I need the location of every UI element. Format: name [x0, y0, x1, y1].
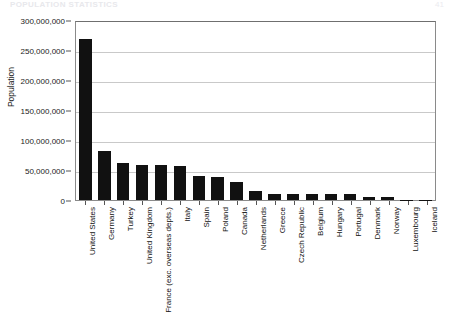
x-tick-slot: United Kingdom	[132, 203, 151, 315]
y-tick-label: 50,000,000	[25, 167, 65, 176]
x-tick-slot: Netherlands	[246, 203, 265, 315]
bar-slot	[76, 22, 95, 200]
bar[interactable]	[174, 166, 186, 201]
x-tick-mark	[389, 201, 390, 205]
bar[interactable]	[363, 197, 375, 200]
x-tick-slot: Norway	[379, 203, 398, 315]
bar[interactable]	[136, 165, 148, 200]
x-tick-mark	[294, 201, 295, 205]
bar-slot	[170, 22, 189, 200]
bar-slot	[114, 22, 133, 200]
bar-slot	[246, 22, 265, 200]
bar[interactable]	[381, 197, 393, 200]
bar-slot	[416, 22, 435, 200]
bar-slot	[397, 22, 416, 200]
bar-slot	[265, 22, 284, 200]
x-tick-mark	[85, 201, 86, 205]
x-tick-mark	[237, 201, 238, 205]
bar[interactable]	[193, 176, 205, 200]
bar[interactable]	[98, 151, 110, 200]
x-tick-slot: Belgium	[303, 203, 322, 315]
bar[interactable]	[79, 39, 91, 200]
x-tick-mark	[408, 201, 409, 205]
x-tick-mark	[199, 201, 200, 205]
bar-slot	[189, 22, 208, 200]
bar[interactable]	[325, 194, 337, 200]
y-tick-mark	[66, 141, 71, 142]
bar-slot	[359, 22, 378, 200]
bar[interactable]	[155, 165, 167, 200]
x-tick-mark	[370, 201, 371, 205]
bar-slot	[378, 22, 397, 200]
x-tick-mark	[123, 201, 124, 205]
x-tick-slot: Turkey	[113, 203, 132, 315]
bar-series	[76, 22, 435, 200]
x-tick-slot: Hungary	[322, 203, 341, 315]
x-tick-mark	[142, 201, 143, 205]
x-tick-mark	[180, 201, 181, 205]
x-tick-slot: Italy	[170, 203, 189, 315]
x-tick-slot: France (exc. overseas depts.)	[151, 203, 170, 315]
bar-slot	[227, 22, 246, 200]
y-tick-mark	[66, 171, 71, 172]
x-tick-slot: Poland	[208, 203, 227, 315]
y-tick-label: 300,000,000	[21, 17, 66, 26]
x-tick-mark	[351, 201, 352, 205]
plot-area	[75, 21, 436, 201]
x-tick-slot: Greece	[265, 203, 284, 315]
x-tick-mark	[161, 201, 162, 205]
bar[interactable]	[230, 182, 242, 200]
y-tick-mark	[66, 111, 71, 112]
y-tick-label: 100,000,000	[21, 137, 66, 146]
x-tick-mark	[256, 201, 257, 205]
x-axis: United StatesGermanyTurkeyUnited Kingdom…	[75, 203, 436, 315]
x-tick-slot: United States	[75, 203, 94, 315]
x-tick-mark	[218, 201, 219, 205]
bar[interactable]	[268, 194, 280, 200]
x-tick-mark	[104, 201, 105, 205]
y-tick-label: 150,000,000	[21, 107, 66, 116]
bar-slot	[152, 22, 171, 200]
y-tick-label: 250,000,000	[21, 47, 66, 56]
x-tick-slot: Iceland	[417, 203, 436, 315]
bar-slot	[95, 22, 114, 200]
x-tick-slot: Canada	[227, 203, 246, 315]
bar[interactable]	[117, 163, 129, 200]
y-tick-mark	[66, 51, 71, 52]
x-tick-mark	[275, 201, 276, 205]
x-tick-slot: Denmark	[360, 203, 379, 315]
population-bar-chart: Population 300,000,000250,000,000200,000…	[0, 0, 452, 335]
x-tick-mark	[313, 201, 314, 205]
x-tick-slot: Spain	[189, 203, 208, 315]
bar[interactable]	[287, 194, 299, 200]
x-tick-mark	[427, 201, 428, 205]
y-tick-mark	[66, 81, 71, 82]
x-tick-slot: Czech Republic	[284, 203, 303, 315]
y-axis: 300,000,000250,000,000200,000,000150,000…	[0, 21, 71, 201]
y-tick-label: 200,000,000	[21, 77, 66, 86]
bar-slot	[133, 22, 152, 200]
x-tick-label: Iceland	[430, 207, 439, 233]
bar[interactable]	[306, 194, 318, 200]
bar-slot	[284, 22, 303, 200]
bar-slot	[322, 22, 341, 200]
y-tick-mark	[66, 21, 71, 22]
x-tick-slot: Portugal	[341, 203, 360, 315]
bar[interactable]	[211, 177, 223, 200]
bar[interactable]	[249, 191, 261, 200]
y-tick-mark	[66, 201, 71, 202]
x-tick-mark	[332, 201, 333, 205]
x-tick-slot: Germany	[94, 203, 113, 315]
bar-slot	[340, 22, 359, 200]
y-tick-label: 0	[61, 197, 65, 206]
bar-slot	[208, 22, 227, 200]
bar[interactable]	[344, 194, 356, 200]
bar-slot	[303, 22, 322, 200]
x-tick-slot: Luxembourg	[398, 203, 417, 315]
